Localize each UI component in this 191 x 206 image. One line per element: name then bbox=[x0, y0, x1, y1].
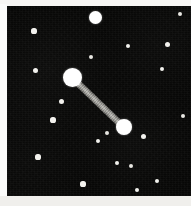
separation-bar bbox=[70, 74, 127, 129]
field-star-07 bbox=[160, 67, 165, 72]
image-grain-secondary bbox=[7, 6, 191, 196]
field-star-11 bbox=[105, 131, 110, 136]
star-field-figure bbox=[0, 0, 191, 206]
field-star-06 bbox=[33, 68, 38, 73]
field-star-08 bbox=[59, 99, 64, 104]
field-star-05 bbox=[89, 55, 93, 59]
field-star-13 bbox=[96, 139, 101, 144]
field-star-19 bbox=[155, 179, 160, 184]
image-border-bottom bbox=[0, 196, 191, 206]
field-star-16 bbox=[129, 164, 133, 168]
image-grain bbox=[7, 6, 191, 196]
field-star-14 bbox=[35, 154, 40, 159]
field-star-15 bbox=[115, 161, 120, 166]
field-star-12 bbox=[141, 134, 146, 139]
field-star-01 bbox=[31, 28, 36, 33]
sky-field bbox=[7, 6, 191, 196]
image-border-left bbox=[0, 4, 7, 200]
field-star-03 bbox=[126, 44, 131, 49]
field-star-top bbox=[89, 11, 102, 24]
field-star-09 bbox=[181, 114, 186, 119]
field-star-02 bbox=[178, 12, 182, 16]
field-star-10 bbox=[50, 117, 55, 122]
field-star-17 bbox=[80, 181, 85, 186]
field-star-18 bbox=[135, 188, 140, 193]
secondary-component bbox=[116, 119, 132, 135]
primary-component bbox=[63, 68, 82, 87]
field-star-04 bbox=[165, 42, 170, 47]
